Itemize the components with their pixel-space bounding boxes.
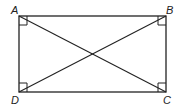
vertex-label-a: A xyxy=(10,4,18,16)
vertex-label-c: C xyxy=(163,94,171,106)
right-angle-marker-a xyxy=(19,16,27,25)
right-angle-marker-d xyxy=(19,83,27,92)
rectangle-diagram: A B C D xyxy=(0,0,184,110)
right-angle-marker-b xyxy=(158,16,166,25)
right-angle-marker-c xyxy=(158,83,166,92)
vertex-label-b: B xyxy=(166,4,173,16)
vertex-label-d: D xyxy=(11,94,19,106)
